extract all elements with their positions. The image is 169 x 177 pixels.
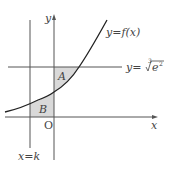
horizontal-line-label: y= 3 e 2 [125,57,164,74]
region-b-label: B [38,103,47,116]
svg-text:e: e [152,61,159,74]
region-a-label: A [57,70,66,83]
vertical-line-label: x=k [18,150,40,163]
x-axis-label: x [151,119,158,132]
curve-f-x [5,20,107,112]
svg-text:y=: y= [125,61,141,74]
curve-label: y=f(x) [105,26,140,39]
y-axis-label: y [44,12,52,25]
graph-diagram: y x O A B y=f(x) y= 3 e 2 x=k [0,0,169,177]
origin-label: O [44,119,53,132]
y-axis-arrow-icon [52,14,56,20]
svg-text:2: 2 [159,60,163,67]
